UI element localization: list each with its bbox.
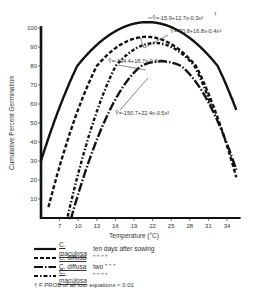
y-tick-label: 70	[30, 82, 37, 88]
equation-2-label: Ŷ=-70.8+16.8x-0.4x²	[170, 28, 221, 34]
equation-1-label: Ŷ=-15.9+12.7x-0.3x²	[152, 15, 203, 21]
y-axis-label: Cumulative Percent Germination	[8, 76, 15, 170]
y-tick-label: 80	[30, 63, 37, 69]
legend-item: C. diffusa " " " "	[34, 253, 154, 262]
y-tick-label: 50	[30, 120, 37, 126]
curves	[41, 22, 236, 218]
y-tick-label: 40	[30, 139, 37, 145]
y-tick-label: 20	[30, 177, 37, 183]
dash-dot-swatch	[34, 273, 56, 279]
legend-item: C. diffusa two " " "	[34, 262, 154, 271]
legend-condition: " " " "	[93, 253, 108, 262]
equation-3-label: Ŷ=-134.4+18.7x-0.4x²	[108, 58, 162, 64]
dashed-line-swatch	[34, 255, 56, 261]
y-tick-label: 100	[27, 25, 38, 31]
x-tick-label: 16	[112, 223, 119, 229]
x-tick-label: 19	[131, 223, 138, 229]
x-tick-label: 7	[58, 223, 62, 229]
x-tick-label: 13	[93, 223, 100, 229]
legend: C. maculosa ten days after sowing C. dif…	[34, 244, 154, 290]
legend-condition: two " " "	[93, 262, 115, 271]
x-tick-label: 10	[75, 223, 82, 229]
y-tick-label: 30	[30, 158, 37, 164]
legend-species: C. diffusa	[59, 253, 93, 262]
legend-item: C. maculosa " " " "	[34, 271, 154, 280]
curve-3	[70, 61, 237, 218]
solid-line-swatch	[34, 246, 56, 252]
longdash-dot-swatch	[34, 264, 56, 270]
significance-mark: †	[214, 11, 217, 17]
legend-condition: " " " "	[93, 271, 108, 280]
y-tick-label: 60	[30, 101, 37, 107]
legend-condition: ten days after sowing	[93, 244, 154, 253]
y-tick-label: 10	[30, 196, 37, 202]
x-tick-label: 28	[186, 223, 193, 229]
equation-4-label: Ŷ=-150.7+22.4x-0.5x²	[115, 110, 169, 116]
legend-item: C. maculosa ten days after sowing	[34, 244, 154, 253]
x-tick-label: 25	[168, 223, 175, 229]
footnote: † F PROB of all four equations < 0.01	[34, 281, 154, 290]
germination-chart: 1020304050607080901007101316192225283134…	[0, 0, 258, 240]
x-tick-label: 31	[205, 223, 212, 229]
y-tick-label: 90	[30, 44, 37, 50]
x-axis-label: Temperature (°C)	[109, 232, 159, 240]
x-tick-label: 34	[224, 223, 231, 229]
x-tick-label: 22	[149, 223, 156, 229]
